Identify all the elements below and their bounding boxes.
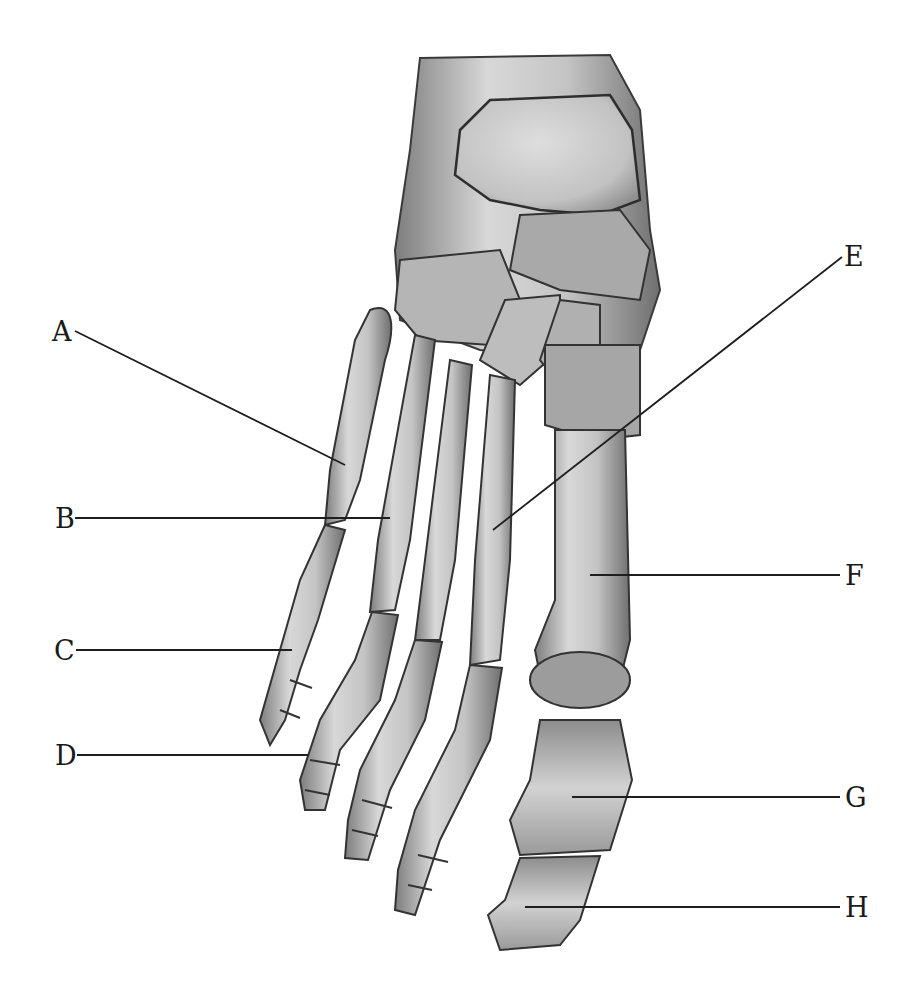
tarsal-bones — [395, 55, 660, 440]
foot-bone-diagram: A B C D E F G H — [0, 0, 914, 1005]
label-e: E — [844, 243, 864, 270]
foot-skeleton-illustration — [0, 0, 914, 1005]
leader-lines — [75, 257, 842, 907]
label-c: C — [54, 637, 75, 664]
label-d: D — [55, 742, 77, 769]
label-b: B — [55, 505, 75, 532]
label-f: F — [845, 562, 864, 589]
label-g: G — [845, 784, 867, 811]
label-h: H — [845, 894, 869, 921]
label-a: A — [52, 318, 72, 345]
leader-line-a — [75, 331, 345, 465]
